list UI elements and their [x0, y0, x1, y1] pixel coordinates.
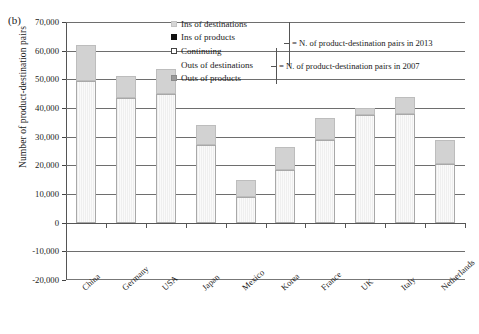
- x-tick: [106, 223, 107, 228]
- x-tick: [226, 223, 227, 228]
- bar-segment-continuing: [196, 145, 216, 222]
- bar: [116, 22, 136, 280]
- legend-item: Outs of destinations: [171, 58, 289, 72]
- bar-segment-ins-destinations: [196, 125, 216, 145]
- bar-segment-continuing: [395, 114, 415, 223]
- y-tick: [62, 280, 66, 281]
- y-tick-label: 60,000: [35, 46, 59, 56]
- bar: [76, 22, 96, 280]
- y-tick: [62, 137, 66, 138]
- bar-segment-ins-destinations: [275, 147, 295, 170]
- legend-label: Continuing: [181, 46, 222, 56]
- legend-item: Continuing: [171, 44, 289, 58]
- legend-item: Outs of products: [171, 71, 289, 85]
- annotation-2007: = N. of product-destination pairs in 200…: [279, 61, 420, 71]
- y-tick: [62, 79, 66, 80]
- x-tick: [146, 223, 147, 228]
- legend-label: Outs of destinations: [181, 60, 253, 70]
- legend-label: Ins of destinations: [181, 19, 247, 29]
- y-tick-label: 10,000: [35, 189, 59, 199]
- bracket-top-stub: [284, 43, 290, 44]
- x-tick: [186, 223, 187, 228]
- bar-segment-ins-destinations: [116, 76, 136, 98]
- x-tick: [305, 223, 306, 228]
- bar-segment-continuing: [236, 197, 256, 223]
- legend-label: Ins of products: [181, 32, 235, 42]
- y-tick: [62, 194, 66, 195]
- legend: Ins of destinationsIns of productsContin…: [171, 17, 289, 85]
- y-tick-label: 50,000: [35, 74, 59, 84]
- bar-segment-ins-destinations: [355, 108, 375, 115]
- y-tick-label: 0: [55, 218, 59, 228]
- bracket-bottom-stub: [271, 66, 277, 67]
- legend-item: Ins of products: [171, 31, 289, 45]
- legend-item: Ins of destinations: [171, 17, 289, 31]
- y-tick-label: 20,000: [35, 160, 59, 170]
- y-tick-label: 30,000: [35, 132, 59, 142]
- legend-swatch-icon: [171, 75, 177, 81]
- bar-segment-continuing: [355, 115, 375, 223]
- x-tick: [465, 223, 466, 228]
- legend-swatch-icon: [171, 21, 177, 27]
- bar-segment-ins-destinations: [435, 140, 455, 164]
- y-tick: [62, 22, 66, 23]
- x-tick: [345, 223, 346, 228]
- x-tick: [266, 223, 267, 228]
- legend-swatch-icon: [171, 62, 177, 68]
- y-tick: [62, 51, 66, 52]
- annotation-2013: = N. of product-destination pairs in 201…: [292, 38, 433, 48]
- y-tick-label: -10,000: [32, 246, 59, 256]
- x-tick: [425, 223, 426, 228]
- bar-segment-ins-destinations: [236, 180, 256, 197]
- bar-segment-ins-destinations: [395, 97, 415, 114]
- bar-segment-ins-destinations: [315, 118, 335, 140]
- bar-segment-continuing: [435, 164, 455, 223]
- y-tick: [62, 251, 66, 252]
- bar-segment-continuing: [76, 81, 96, 223]
- bar-segment-continuing: [116, 98, 136, 223]
- bracket-top-line: [289, 22, 290, 66]
- bar-segment-ins-destinations: [76, 45, 96, 81]
- legend-swatch-icon: [171, 48, 177, 54]
- chart-figure: (b) Number of product-destination pairs …: [0, 0, 479, 334]
- bar-segment-continuing: [315, 140, 335, 223]
- y-tick-label: -20,000: [32, 275, 59, 285]
- bar-segment-continuing: [156, 94, 176, 223]
- bar-segment-continuing: [275, 170, 295, 223]
- legend-label: Outs of products: [181, 73, 241, 83]
- x-tick: [385, 223, 386, 228]
- y-tick: [62, 223, 66, 224]
- y-axis-title: Number of product-destination pairs: [18, 12, 28, 182]
- y-tick: [62, 108, 66, 109]
- y-tick-label: 70,000: [35, 17, 59, 27]
- legend-swatch-icon: [171, 34, 177, 40]
- y-tick-label: 40,000: [35, 103, 59, 113]
- y-tick: [62, 165, 66, 166]
- bar: [435, 22, 455, 280]
